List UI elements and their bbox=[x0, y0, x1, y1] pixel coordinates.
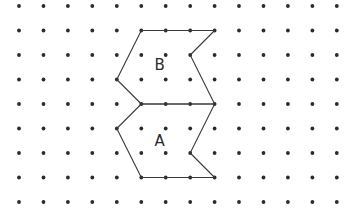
grid-dot bbox=[311, 4, 315, 8]
grid-dot bbox=[237, 78, 241, 82]
grid-dot bbox=[311, 29, 315, 33]
grid-dot bbox=[115, 53, 119, 57]
grid-dot bbox=[335, 127, 339, 131]
grid-dot bbox=[213, 53, 217, 57]
grid-dot bbox=[286, 176, 290, 180]
grid-dot bbox=[262, 29, 266, 33]
grid-dot bbox=[262, 4, 266, 8]
grid-dot bbox=[311, 200, 315, 204]
grid-dot bbox=[237, 151, 241, 155]
grid-dot bbox=[311, 127, 315, 131]
grid-dot bbox=[335, 53, 339, 57]
grid-dot bbox=[66, 200, 70, 204]
grid-dot bbox=[17, 151, 21, 155]
grid-dot bbox=[188, 127, 192, 131]
shape-a-outline bbox=[117, 104, 215, 178]
grid-dot bbox=[115, 176, 119, 180]
grid-dot bbox=[335, 4, 339, 8]
grid-dot bbox=[42, 4, 46, 8]
grid-dot bbox=[42, 176, 46, 180]
grid-dot bbox=[164, 127, 168, 131]
grid-dot bbox=[42, 78, 46, 82]
grid-dot bbox=[188, 200, 192, 204]
grid-dot bbox=[237, 102, 241, 106]
grid-dot bbox=[42, 127, 46, 131]
grid-dot bbox=[311, 151, 315, 155]
grid-dot bbox=[90, 200, 94, 204]
grid-dot bbox=[335, 151, 339, 155]
grid-dot bbox=[42, 151, 46, 155]
grid-dot bbox=[237, 4, 241, 8]
grid-dot bbox=[90, 78, 94, 82]
grid-dot bbox=[66, 176, 70, 180]
shapes-layer bbox=[117, 31, 215, 178]
grid-dot bbox=[286, 29, 290, 33]
grid-dot bbox=[66, 78, 70, 82]
grid-dot bbox=[164, 200, 168, 204]
grid-dot bbox=[286, 127, 290, 131]
labels-layer: B A bbox=[154, 56, 165, 150]
grid-dot bbox=[262, 53, 266, 57]
grid-dot bbox=[262, 151, 266, 155]
grid-dot bbox=[139, 151, 143, 155]
grid-dot bbox=[335, 102, 339, 106]
grid-dot bbox=[115, 29, 119, 33]
grid-dot bbox=[17, 78, 21, 82]
grid-dot bbox=[66, 127, 70, 131]
grid-dot bbox=[42, 102, 46, 106]
grid-dot bbox=[66, 102, 70, 106]
grid-dot bbox=[188, 78, 192, 82]
grid-dot bbox=[17, 127, 21, 131]
grid-dot bbox=[139, 78, 143, 82]
shape-b-outline bbox=[117, 31, 215, 105]
grid-dot bbox=[90, 151, 94, 155]
grid-dot bbox=[213, 4, 217, 8]
grid-dot bbox=[42, 29, 46, 33]
grid-dot bbox=[188, 4, 192, 8]
grid-dot bbox=[237, 127, 241, 131]
grid-dot bbox=[213, 151, 217, 155]
grid-dot bbox=[164, 4, 168, 8]
grid-dot bbox=[213, 200, 217, 204]
grid-dot bbox=[286, 78, 290, 82]
grid-dot bbox=[17, 176, 21, 180]
grid-dot bbox=[115, 4, 119, 8]
grid-dot bbox=[139, 4, 143, 8]
dot-grid-diagram: B A bbox=[0, 0, 361, 209]
grid-dot bbox=[90, 4, 94, 8]
grid-dot bbox=[335, 176, 339, 180]
grid-dot bbox=[139, 127, 143, 131]
grid-dot bbox=[139, 200, 143, 204]
grid-dot bbox=[262, 176, 266, 180]
grid-dot bbox=[286, 151, 290, 155]
grid-dot bbox=[262, 102, 266, 106]
grid-dot bbox=[311, 53, 315, 57]
grid-dot bbox=[42, 53, 46, 57]
grid-dot bbox=[311, 176, 315, 180]
grid-dot bbox=[262, 127, 266, 131]
grid-dot bbox=[237, 200, 241, 204]
grid-dot bbox=[115, 151, 119, 155]
grid-dot bbox=[262, 78, 266, 82]
grid-dot bbox=[213, 127, 217, 131]
grid-dot bbox=[42, 200, 46, 204]
grid-dot bbox=[17, 53, 21, 57]
grid-dot bbox=[90, 127, 94, 131]
grid-dot bbox=[66, 4, 70, 8]
shape-label-b: B bbox=[154, 56, 164, 74]
grid-dot bbox=[262, 200, 266, 204]
grid-dot bbox=[286, 200, 290, 204]
grid-dot bbox=[17, 4, 21, 8]
grid-dot bbox=[90, 102, 94, 106]
grid-dot bbox=[115, 102, 119, 106]
grid-dot bbox=[311, 102, 315, 106]
grid-dot bbox=[311, 78, 315, 82]
grid-dot bbox=[164, 151, 168, 155]
grid-dot bbox=[17, 200, 21, 204]
grid-dot bbox=[335, 200, 339, 204]
grid-dot bbox=[237, 176, 241, 180]
grid-dot bbox=[335, 29, 339, 33]
grid-dot bbox=[90, 53, 94, 57]
grid-dot bbox=[66, 53, 70, 57]
grid-dot bbox=[286, 102, 290, 106]
